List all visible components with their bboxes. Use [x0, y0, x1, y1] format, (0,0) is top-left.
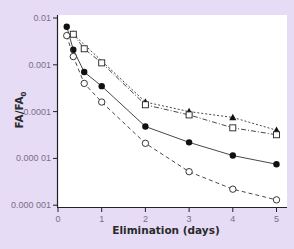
x-tick-label: 1	[99, 214, 104, 224]
data-point	[99, 60, 105, 66]
data-point	[99, 83, 105, 89]
y-tick-label: 0.0001	[23, 107, 51, 117]
data-point	[230, 186, 236, 192]
data-point	[64, 32, 70, 38]
y-tick-label: 0.000 01	[16, 153, 51, 163]
y-tick-label: 0.001	[28, 60, 51, 70]
data-point	[274, 132, 280, 138]
plot-area	[57, 15, 287, 207]
y-tick-label: 0.000 001	[11, 200, 51, 210]
data-point	[186, 112, 192, 118]
data-point	[99, 99, 105, 105]
data-point	[81, 69, 87, 75]
data-point	[81, 80, 87, 86]
elimination-chart: 0.010.0010.00010.000 010.000 001 012345 …	[0, 0, 294, 249]
data-point	[70, 53, 76, 59]
x-tick-label: 2	[143, 214, 148, 224]
x-tick-label: 4	[230, 214, 235, 224]
y-tick-label: 0.01	[33, 13, 51, 23]
data-point	[186, 139, 192, 145]
data-point	[273, 197, 279, 203]
x-tick-label: 5	[274, 214, 279, 224]
data-point	[70, 31, 76, 37]
x-tick-label: 3	[187, 214, 192, 224]
y-axis-title-main: FA/FA	[13, 96, 25, 129]
data-point	[186, 168, 192, 174]
data-point	[230, 125, 236, 131]
x-axis-title: Elimination (days)	[112, 224, 219, 236]
data-point	[142, 102, 148, 108]
data-point	[142, 123, 148, 129]
x-ticks: 012345	[55, 207, 279, 224]
x-tick-label: 0	[55, 214, 60, 224]
data-point	[142, 140, 148, 146]
data-point	[273, 161, 279, 167]
data-point	[230, 152, 236, 158]
data-point	[64, 24, 70, 30]
data-point	[81, 46, 87, 52]
y-axis-title-sub: 0	[20, 91, 28, 96]
